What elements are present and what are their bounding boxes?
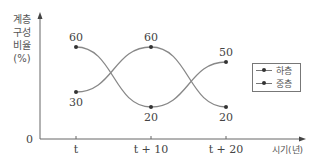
origin-label: 0 (26, 133, 33, 146)
data-point (74, 45, 78, 49)
legend: 하층 중층 (252, 63, 301, 92)
x-axis-label: 시기(년) (272, 143, 303, 156)
y-axis-label-line: 구성 (8, 26, 36, 39)
data-point (224, 105, 228, 109)
data-point (224, 60, 228, 64)
legend-item: 하층 (253, 64, 300, 77)
y-axis-label-line: 비율 (8, 39, 36, 52)
line-marker-icon (256, 70, 272, 71)
y-axis-label: 계층 구성 비율 (%) (8, 13, 36, 65)
y-axis-arrow-icon (38, 12, 43, 19)
data-label: 50 (219, 46, 233, 59)
x-tick-label: t (74, 143, 79, 156)
y-axis-label-line: 계층 (8, 13, 36, 26)
legend-item: 중층 (253, 77, 300, 90)
y-axis-label-line: (%) (8, 52, 36, 65)
x-axis-arrow-icon (299, 137, 306, 142)
data-point (149, 105, 153, 109)
series-layer: 602050306020 (69, 31, 233, 124)
legend-label: 중층 (276, 77, 292, 90)
data-label: 60 (144, 31, 158, 44)
data-label: 20 (144, 111, 158, 124)
data-label: 60 (69, 31, 83, 44)
data-label: 20 (219, 111, 233, 124)
data-point (149, 45, 153, 49)
data-label: 30 (69, 96, 83, 109)
line-marker-icon (256, 83, 272, 84)
x-tick-label: t + 10 (134, 143, 169, 156)
legend-label: 하층 (276, 64, 292, 77)
x-tick-label: t + 20 (209, 143, 244, 156)
data-point (74, 90, 78, 94)
